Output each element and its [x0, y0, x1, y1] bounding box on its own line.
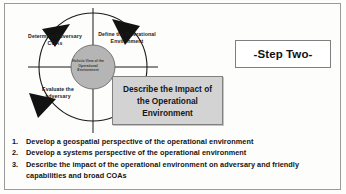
ipb-step-two-figure: Determine Adversary COAs Define the Oper…	[0, 0, 346, 194]
list-item: 3. Describe the impact of the operationa…	[12, 159, 334, 182]
list-item: 2. Develop a systems perspective of the …	[12, 147, 334, 158]
list-item-number: 1.	[12, 136, 26, 147]
cycle-label-evaluate-the-adversary: Evaluate the adversary	[29, 86, 87, 100]
list-item-text: Develop a geospatial perspective of the …	[26, 136, 334, 147]
sub-steps-list: 1. Develop a geospatial perspective of t…	[12, 136, 334, 182]
describe-impact-callout-text: Describe the Impact of the Operational E…	[113, 83, 222, 119]
list-item-number: 2.	[12, 147, 26, 158]
cycle-label-define-operational-environment: Define the Operational Environment	[98, 31, 156, 45]
list-item-text: Describe the impact of the operational e…	[26, 159, 334, 182]
list-item-text: Develop a systems perspective of the ope…	[26, 147, 334, 158]
step-two-title-box: -Step Two-	[235, 40, 331, 68]
list-item-number: 3.	[12, 159, 26, 170]
cycle-center-label: Holistic View of the Operational Environ…	[68, 59, 108, 73]
list-item: 1. Develop a geospatial perspective of t…	[12, 136, 334, 147]
describe-impact-callout-box: Describe the Impact of the Operational E…	[112, 76, 223, 125]
step-two-title-text: -Step Two-	[254, 48, 313, 60]
cycle-label-determine-adversary-coas: Determine Adversary COAs	[27, 33, 83, 47]
